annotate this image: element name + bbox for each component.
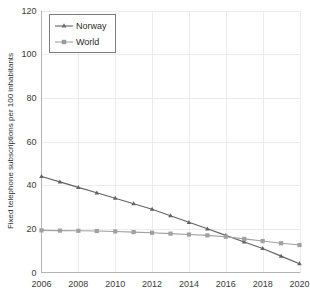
chart-legend: Norway World xyxy=(50,15,116,53)
legend-label-world: World xyxy=(76,37,99,47)
y-tick-label: 120 xyxy=(21,6,36,16)
x-tick-label: 2008 xyxy=(68,279,88,289)
data-point-marker xyxy=(297,243,301,247)
y-tick-label: 20 xyxy=(26,224,36,234)
legend-label-norway: Norway xyxy=(76,21,107,31)
x-tick-label: 2006 xyxy=(31,279,51,289)
x-tick-label: 2018 xyxy=(253,279,273,289)
data-point-marker xyxy=(261,239,265,243)
x-tick-label: 2010 xyxy=(105,279,125,289)
x-tick-label: 2020 xyxy=(289,279,309,289)
y-tick-label: 0 xyxy=(31,268,36,278)
data-point-marker xyxy=(187,232,191,236)
data-point-marker xyxy=(168,232,172,236)
line-chart: 20062008201020122014201620182020 0204060… xyxy=(0,0,310,301)
data-point-marker xyxy=(76,229,80,233)
x-tick-label: 2014 xyxy=(179,279,199,289)
data-point-marker xyxy=(205,233,209,237)
data-point-marker xyxy=(279,241,283,245)
y-tick-label: 60 xyxy=(26,137,36,147)
x-tick-label: 2016 xyxy=(216,279,236,289)
data-point-marker xyxy=(58,228,62,232)
data-point-marker xyxy=(242,237,246,241)
data-point-marker xyxy=(224,235,228,239)
y-axis-label: Fixed telephone subscriptions per 100 in… xyxy=(6,53,15,229)
y-tick-label: 80 xyxy=(26,93,36,103)
y-tick-label: 100 xyxy=(21,49,36,59)
y-tick-label: 40 xyxy=(26,180,36,190)
square-marker-icon xyxy=(62,40,66,44)
data-point-marker xyxy=(132,230,136,234)
data-point-marker xyxy=(113,229,117,233)
data-point-marker xyxy=(95,229,99,233)
data-point-marker xyxy=(39,228,43,232)
data-point-marker xyxy=(150,231,154,235)
chart-container: 20062008201020122014201620182020 0204060… xyxy=(0,0,310,301)
x-tick-label: 2012 xyxy=(142,279,162,289)
